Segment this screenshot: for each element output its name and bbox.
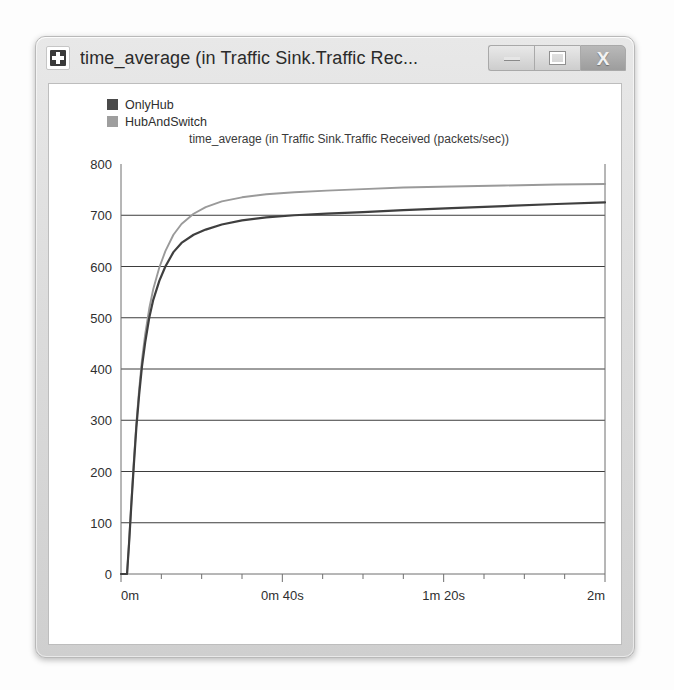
- app-plus-icon: [46, 46, 70, 70]
- legend-label: HubAndSwitch: [125, 115, 207, 129]
- y-axis-tick-label: 800: [90, 157, 112, 172]
- close-icon: X: [597, 49, 610, 68]
- maximize-icon: [550, 52, 565, 64]
- window-controls: X: [488, 45, 626, 71]
- chart-window: time_average (in Traffic Sink.Traffic Re…: [35, 36, 635, 658]
- y-axis-tick-label: 600: [90, 260, 112, 275]
- y-axis-tick-label: 300: [90, 413, 112, 428]
- y-axis-tick-label: 500: [90, 311, 112, 326]
- y-axis-tick-label: 0: [105, 567, 112, 582]
- legend-swatch: [107, 116, 118, 127]
- x-axis-tick-label: 2m: [587, 588, 605, 603]
- minimize-button[interactable]: [488, 45, 534, 71]
- line-chart: 01002003004005006007008000m0m 40s1m 20s2…: [49, 156, 623, 648]
- window-titlebar[interactable]: time_average (in Traffic Sink.Traffic Re…: [36, 37, 634, 79]
- legend-item-onlyhub[interactable]: OnlyHub: [107, 96, 207, 113]
- window-title: time_average (in Traffic Sink.Traffic Re…: [80, 48, 488, 69]
- y-axis-tick-label: 400: [90, 362, 112, 377]
- legend-swatch: [107, 99, 118, 110]
- chart-panel: OnlyHub HubAndSwitch time_average (in Tr…: [48, 83, 622, 645]
- chart-title: time_average (in Traffic Sink.Traffic Re…: [49, 132, 621, 146]
- close-button[interactable]: X: [580, 45, 626, 71]
- screenshot-root: time_average (in Traffic Sink.Traffic Re…: [0, 0, 674, 690]
- y-axis-tick-label: 200: [90, 465, 112, 480]
- chart-series-onlyhub: [121, 202, 605, 574]
- minimize-icon: [504, 57, 520, 60]
- y-axis-tick-label: 100: [90, 516, 112, 531]
- x-axis-tick-label: 0m: [121, 588, 139, 603]
- legend-item-hubandswitch[interactable]: HubAndSwitch: [107, 113, 207, 130]
- x-axis-tick-label: 1m 20s: [422, 588, 465, 603]
- chart-legend: OnlyHub HubAndSwitch: [107, 96, 207, 130]
- x-axis-tick-label: 0m 40s: [261, 588, 304, 603]
- plot-area: 01002003004005006007008000m0m 40s1m 20s2…: [49, 156, 621, 644]
- legend-label: OnlyHub: [125, 98, 174, 112]
- chart-series-hubandswitch: [121, 184, 605, 574]
- y-axis-tick-label: 700: [90, 208, 112, 223]
- maximize-button[interactable]: [534, 45, 580, 71]
